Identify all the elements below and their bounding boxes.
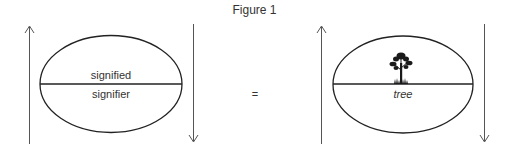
- up-arrow-icon: [317, 26, 326, 144]
- signifier-label: signifier: [92, 88, 130, 100]
- down-arrow-icon: [480, 24, 489, 142]
- left-sign-diagram: signified signifier: [25, 24, 198, 144]
- up-arrow-icon: [25, 26, 34, 144]
- down-arrow-icon: [189, 24, 198, 142]
- right-sign-diagram: tree: [317, 24, 489, 144]
- tree-icon: [390, 53, 413, 85]
- signified-label: signified: [91, 69, 131, 81]
- tree-label: tree: [394, 88, 413, 100]
- equals-symbol: =: [252, 88, 258, 100]
- saussure-sign-figure: Figure 1 signified signifier =: [0, 0, 509, 151]
